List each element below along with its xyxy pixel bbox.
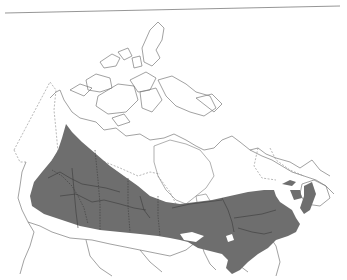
- arctic-islands: [70, 22, 222, 126]
- range-map: [0, 0, 347, 280]
- top-rule: [5, 6, 340, 13]
